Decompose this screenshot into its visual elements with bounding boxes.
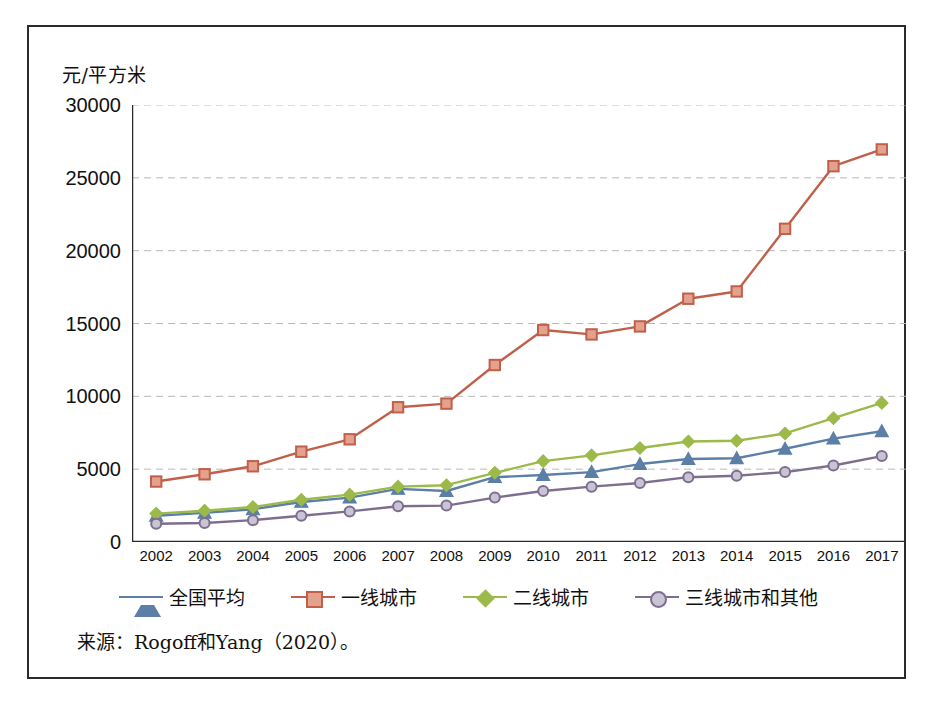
data-point-square (393, 402, 403, 412)
data-point-square (828, 161, 838, 171)
x-tick-label: 2004 (236, 547, 269, 564)
plot-canvas (132, 105, 906, 542)
x-tick-label: 2006 (333, 547, 366, 564)
data-point-square (635, 321, 645, 331)
data-point-circle (732, 471, 742, 481)
x-tick-label: 2007 (381, 547, 414, 564)
legend-item-4[interactable]: 三线城市和其他 (635, 583, 818, 610)
data-point-diamond (827, 412, 839, 424)
data-point-circle (345, 506, 355, 516)
legend-label: 三线城市和其他 (685, 583, 818, 610)
legend-label: 一线城市 (341, 583, 417, 610)
data-point-square (490, 360, 500, 370)
data-point-diamond (585, 449, 597, 461)
data-point-diamond (779, 427, 791, 439)
data-point-square (877, 144, 887, 154)
data-point-square (248, 461, 258, 471)
x-tick-label: 2013 (672, 547, 705, 564)
data-point-circle (490, 493, 500, 503)
line-chart-svg (132, 105, 906, 542)
data-point-circle (393, 501, 403, 511)
x-tick-label: 2008 (430, 547, 463, 564)
data-point-circle (683, 472, 693, 482)
data-point-diamond (876, 397, 888, 409)
data-point-square (199, 469, 209, 479)
data-point-square (538, 325, 548, 335)
chart-legend: 全国平均一线城市二线城市三线城市和其他 (29, 583, 908, 610)
data-point-circle (877, 451, 887, 461)
data-point-square (780, 224, 790, 234)
source-note: 来源：Rogoff和Yang（2020）。 (77, 627, 359, 654)
x-axis-tick-labels: 2002200320042005200620072008200920102011… (132, 547, 906, 575)
data-point-square (296, 446, 306, 456)
x-tick-label: 2010 (527, 547, 560, 564)
data-point-circle (828, 461, 838, 471)
data-point-circle (538, 486, 548, 496)
y-tick-label: 10000 (65, 385, 121, 408)
data-point-circle (441, 501, 451, 511)
data-point-circle (151, 519, 161, 529)
legend-item-2[interactable]: 一线城市 (291, 583, 417, 610)
x-tick-label: 2014 (720, 547, 753, 564)
y-tick-label: 25000 (65, 166, 121, 189)
data-point-square (683, 294, 693, 304)
y-axis-tick-labels: 050001000015000200002500030000 (29, 105, 121, 542)
x-tick-label: 2012 (623, 547, 656, 564)
x-tick-label: 2016 (817, 547, 850, 564)
data-point-circle (587, 482, 597, 492)
data-point-diamond (682, 435, 694, 447)
y-tick-label: 15000 (65, 312, 121, 335)
figure-frame: 元/平方米 050001000015000200002500030000 200… (27, 25, 906, 679)
legend-label: 全国平均 (169, 583, 245, 610)
x-tick-label: 2017 (865, 547, 898, 564)
data-point-circle (780, 467, 790, 477)
data-point-square (586, 329, 596, 339)
data-point-square (344, 434, 354, 444)
series-line (150, 397, 888, 520)
legend-marker-square-icon (291, 589, 335, 605)
y-tick-label: 5000 (77, 458, 122, 481)
x-tick-label: 2015 (768, 547, 801, 564)
data-point-circle (248, 515, 258, 525)
data-point-circle (635, 478, 645, 488)
legend-item-3[interactable]: 二线城市 (463, 583, 589, 610)
data-point-circle (200, 518, 210, 528)
x-tick-label: 2011 (575, 547, 607, 564)
y-tick-label: 0 (110, 531, 121, 554)
y-tick-label: 30000 (65, 94, 121, 117)
chart-area: 元/平方米 050001000015000200002500030000 200… (29, 27, 904, 677)
legend-marker-circle-icon (635, 589, 679, 605)
x-tick-label: 2002 (140, 547, 173, 564)
legend-marker-triangle-icon (119, 589, 163, 605)
legend-label: 二线城市 (513, 583, 589, 610)
data-point-diamond (537, 455, 549, 467)
legend-item-1[interactable]: 全国平均 (119, 583, 245, 610)
y-tick-label: 20000 (65, 239, 121, 262)
data-point-square (151, 476, 161, 486)
legend-marker-diamond-icon (463, 589, 507, 605)
data-point-diamond (730, 435, 742, 447)
x-tick-label: 2005 (285, 547, 318, 564)
data-point-square (731, 286, 741, 296)
x-tick-label: 2003 (188, 547, 221, 564)
data-point-triangle (875, 425, 888, 437)
data-point-diamond (634, 442, 646, 454)
x-tick-label: 2009 (478, 547, 511, 564)
data-point-square (441, 398, 451, 408)
data-point-circle (296, 511, 306, 521)
y-axis-label: 元/平方米 (62, 60, 147, 87)
